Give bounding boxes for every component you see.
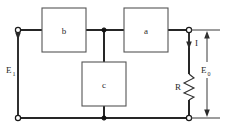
annotation-I: I	[186, 33, 198, 49]
block-c-label: c	[102, 80, 106, 90]
E0-arrow-head-bottom	[204, 110, 210, 118]
junction-top-node	[102, 28, 106, 32]
block-b-label: b	[62, 26, 67, 36]
terminal-output-top[interactable]	[186, 27, 191, 32]
E1-label-subscript: 1	[13, 71, 16, 77]
block-a-label: a	[144, 26, 148, 36]
block-a[interactable]: a	[124, 8, 168, 52]
E1-label-base: E	[6, 65, 12, 75]
I-arrow-head	[186, 42, 192, 50]
E1-arrow-head	[15, 33, 21, 41]
schematic-canvas: b a c R E 1	[0, 0, 228, 135]
terminal-output-bottom[interactable]	[186, 115, 191, 120]
I-label: I	[195, 38, 198, 48]
resistor-label: R	[175, 82, 181, 92]
block-c[interactable]: c	[82, 62, 126, 106]
circuit-schematic-diagram: b a c R E 1	[0, 0, 228, 135]
E0-label-base: E	[201, 65, 207, 75]
annotation-E1: E 1	[6, 33, 21, 116]
terminal-input-top[interactable]	[15, 27, 20, 32]
block-b[interactable]: b	[42, 8, 86, 52]
E0-label-subscript: 0	[208, 71, 211, 77]
junction-bottom-node	[102, 116, 106, 120]
resistor-R[interactable]: R	[175, 74, 194, 100]
resistor-zigzag	[184, 74, 194, 100]
terminal-input-bottom[interactable]	[15, 115, 20, 120]
